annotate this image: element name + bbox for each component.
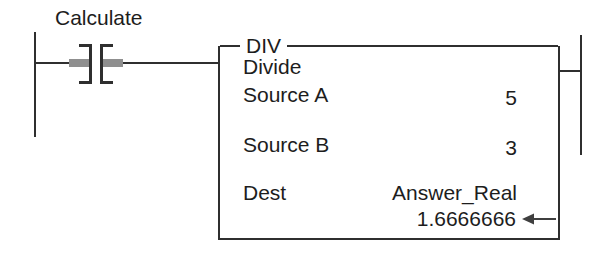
block-title: DIV xyxy=(240,35,287,57)
bracket-right-bottom-cap xyxy=(100,81,113,84)
right-power-rail xyxy=(580,35,582,155)
div-instruction-block: DIV Divide Source A 5 Source B 3 Dest An… xyxy=(218,46,560,240)
contact-bar-right xyxy=(103,59,123,67)
contact-gap xyxy=(92,58,100,68)
bracket-left-top-cap xyxy=(79,44,92,47)
param-source-a-value: 5 xyxy=(505,87,517,109)
param-source-b-value: 3 xyxy=(505,137,517,159)
param-source-a-label: Source A xyxy=(243,84,328,106)
result-row: 1.6666666 xyxy=(417,207,556,231)
rung-wire-left xyxy=(34,62,220,64)
output-wire xyxy=(560,70,582,72)
header-line xyxy=(287,45,558,47)
bracket-left-bottom-cap xyxy=(79,81,92,84)
bracket-right-vertical xyxy=(100,44,103,84)
left-arrow-icon xyxy=(522,212,556,226)
bracket-left-vertical xyxy=(89,44,92,84)
contact-bar-left xyxy=(69,59,89,67)
block-description: Divide xyxy=(243,56,301,78)
left-power-rail xyxy=(34,32,36,137)
param-dest-value: Answer_Real xyxy=(392,182,517,204)
header-dash xyxy=(220,45,240,47)
param-source-b-label: Source B xyxy=(243,134,329,156)
contact-label: Calculate xyxy=(55,7,143,29)
param-dest-label: Dest xyxy=(243,182,286,204)
block-header: DIV xyxy=(220,35,558,57)
bracket-right-top-cap xyxy=(100,44,113,47)
result-value: 1.6666666 xyxy=(417,208,516,230)
ladder-diagram: Calculate DIV Divide Source A 5 Source B… xyxy=(0,0,613,257)
